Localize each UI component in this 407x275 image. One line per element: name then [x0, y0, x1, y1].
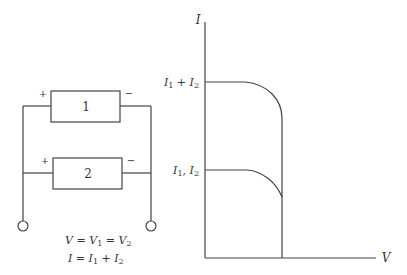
parallel-circuit-iv-diagram: 1 2 + − + − V = V1 = V2 I = I1 + I2 I V … — [0, 0, 407, 275]
y-tick-individual: I1, I2 — [172, 164, 199, 178]
curve-individual — [205, 170, 282, 197]
y-tick-combined: I1 + I2 — [163, 76, 199, 90]
terminal-right-icon — [146, 221, 156, 231]
equation-voltage: V = V1 = V2 — [65, 234, 131, 248]
y-axis-label: I — [195, 13, 201, 27]
iv-chart — [205, 22, 376, 258]
component-1-plus: + — [39, 88, 47, 99]
component-1-label: 1 — [82, 100, 90, 114]
component-2-minus: − — [127, 155, 135, 166]
component-2-label: 2 — [84, 167, 92, 181]
component-2-plus: + — [41, 155, 49, 166]
x-axis-label: V — [382, 251, 392, 265]
equation-current: I = I1 + I2 — [67, 252, 124, 266]
component-1-minus: − — [125, 88, 133, 99]
terminal-left-icon — [18, 221, 28, 231]
